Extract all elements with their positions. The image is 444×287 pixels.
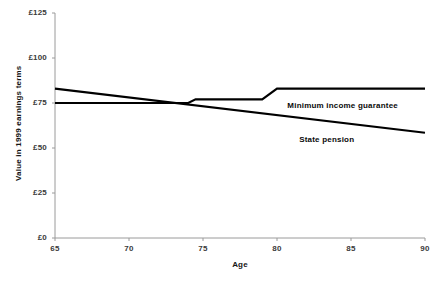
series-label-minimum-income-guarantee: Minimum income guarantee [287,101,398,110]
y-axis-tick-label: £100 [0,53,47,62]
x-axis-title: Age [200,260,280,269]
x-axis-tick-label: 80 [257,244,297,253]
y-axis-title: Value in 1999 earnings terms [14,65,23,180]
y-axis-tick-label: £75 [0,98,47,107]
y-axis-tick-label: £0 [0,233,47,242]
series-line-state-pension [55,89,425,133]
chart-canvas: £0£25£50£75£100£125 657075808590 State p… [0,0,444,287]
x-axis-tick-label: 65 [35,244,75,253]
series-label-state-pension: State pension [299,135,354,144]
y-axis-tick-label: £50 [0,143,47,152]
x-axis-tick-label: 85 [331,244,371,253]
x-axis-tick-label: 90 [405,244,444,253]
x-axis-tick-label: 75 [183,244,223,253]
y-axis-tick-label: £25 [0,188,47,197]
x-axis-tick-label: 70 [109,244,149,253]
series-group [55,89,425,133]
y-axis-tick-label: £125 [0,8,47,17]
